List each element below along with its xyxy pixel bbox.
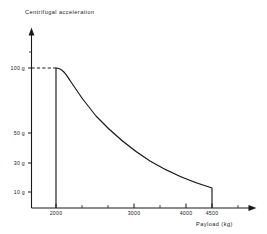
x-tick-label-4500: 4500: [197, 211, 227, 216]
plot-canvas: [0, 0, 267, 234]
x-tick-label-2000: 2000: [41, 211, 71, 216]
x-axis-title: Payload (kg): [196, 222, 233, 228]
y-axis-arrow-icon: [29, 28, 35, 36]
chart-title: Centrifugal acceleration: [25, 10, 95, 16]
y-tick-label-30g: 30 g: [3, 161, 25, 166]
y-tick-label-100g: 100 g: [3, 66, 25, 71]
y-tick-label-50g: 50 g: [3, 131, 25, 136]
acceleration-curve: [56, 68, 212, 208]
y-tick-label-10g: 10 g: [3, 190, 25, 195]
x-axis-arrow-icon: [249, 205, 257, 211]
x-tick-label-3000: 3000: [119, 211, 149, 216]
centrifugal-acceleration-chart: Centrifugal acceleration Payload (kg) 10…: [0, 0, 267, 234]
